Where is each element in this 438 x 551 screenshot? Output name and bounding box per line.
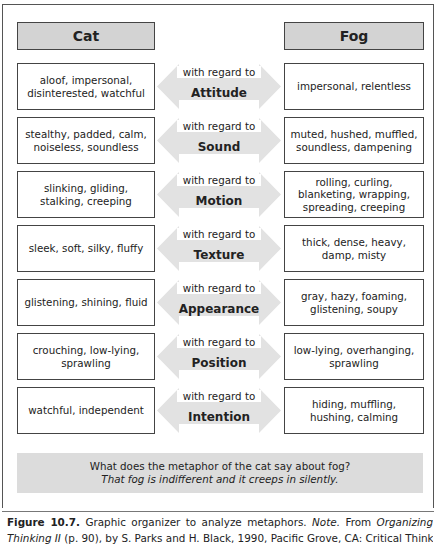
cat-trait-box: stealthy, padded, calm, noiseless, sound… bbox=[17, 117, 155, 164]
double-arrow-connector: with regard toAppearance bbox=[157, 279, 281, 326]
aspect-label: Intention bbox=[157, 410, 281, 424]
aspect-label: Appearance bbox=[157, 302, 281, 316]
fog-trait-box: rolling, curling, blanketing, wrapping, … bbox=[284, 171, 424, 218]
cat-trait-box: slinking, gliding, stalking, creeping bbox=[17, 171, 155, 218]
fog-trait-box: low-lying, overhanging, sprawling bbox=[284, 333, 424, 380]
caption-divider bbox=[2, 511, 434, 512]
figure-caption: Figure 10.7. Graphic organizer to analyz… bbox=[7, 514, 433, 546]
connector-prefix: with regard to bbox=[177, 390, 262, 402]
double-arrow-connector: with regard toAttitude bbox=[157, 63, 281, 110]
connector-prefix: with regard to bbox=[177, 336, 262, 348]
double-arrow-connector: with regard toSound bbox=[157, 117, 281, 164]
connector-prefix: with regard to bbox=[177, 120, 262, 132]
question-box: What does the metaphor of the cat say ab… bbox=[17, 453, 423, 493]
aspect-label: Sound bbox=[157, 140, 281, 154]
double-arrow-connector: with regard toTexture bbox=[157, 225, 281, 272]
aspect-label: Motion bbox=[157, 194, 281, 208]
aspect-label: Attitude bbox=[157, 86, 281, 100]
cat-trait-box: watchful, independent bbox=[17, 387, 155, 434]
fog-trait-box: hiding, muffling, hushing, calming bbox=[284, 387, 424, 434]
cat-trait-box: sleek, soft, silky, fluffy bbox=[17, 225, 155, 272]
connector-prefix: with regard to bbox=[177, 174, 262, 186]
connector-prefix: with regard to bbox=[177, 66, 262, 78]
fog-header: Fog bbox=[284, 22, 424, 50]
aspect-label: Position bbox=[157, 356, 281, 370]
fog-trait-box: muted, hushed, muffled, soundless, dampe… bbox=[284, 117, 424, 164]
double-arrow-connector: with regard toPosition bbox=[157, 333, 281, 380]
cat-trait-box: aloof, impersonal, disinterested, watchf… bbox=[17, 63, 155, 110]
aspect-label: Texture bbox=[157, 248, 281, 262]
cat-trait-box: glistening, shining, fluid bbox=[17, 279, 155, 326]
connector-prefix: with regard to bbox=[177, 228, 262, 240]
connector-prefix: with regard to bbox=[177, 282, 262, 294]
cat-trait-box: crouching, low-lying, sprawling bbox=[17, 333, 155, 380]
cat-header: Cat bbox=[17, 22, 155, 50]
book-title-2: Thinking II bbox=[7, 532, 61, 544]
fog-trait-box: impersonal, relentless bbox=[284, 63, 424, 110]
double-arrow-connector: with regard toMotion bbox=[157, 171, 281, 218]
book-title-1: Organizing bbox=[377, 516, 433, 528]
question-answer: That fog is indifferent and it creeps in… bbox=[101, 473, 338, 486]
fog-trait-box: thick, dense, heavy, damp, misty bbox=[284, 225, 424, 272]
caption-label: Figure 10.7. bbox=[7, 516, 80, 528]
fog-trait-box: gray, hazy, foaming, glistening, soupy bbox=[284, 279, 424, 326]
double-arrow-connector: with regard toIntention bbox=[157, 387, 281, 434]
question-prompt: What does the metaphor of the cat say ab… bbox=[90, 460, 351, 473]
